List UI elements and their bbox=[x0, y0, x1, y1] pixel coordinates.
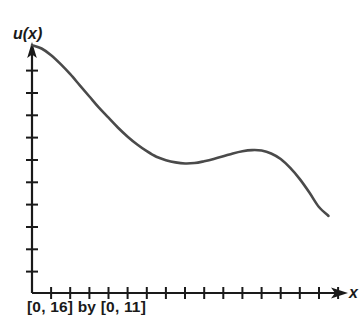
x-axis-label: x bbox=[349, 285, 358, 301]
graph-figure: u(x) x [0, 16] by [0, 11] bbox=[0, 0, 364, 335]
curve-u-of-x bbox=[32, 45, 329, 216]
viewing-window-caption: [0, 16] by [0, 11] bbox=[27, 299, 146, 315]
y-axis-label: u(x) bbox=[13, 26, 42, 42]
plot-area bbox=[0, 0, 364, 335]
